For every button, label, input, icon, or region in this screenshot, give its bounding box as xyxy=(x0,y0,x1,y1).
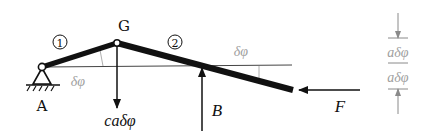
bar-1 xyxy=(42,43,117,67)
hinge-g xyxy=(114,40,120,46)
body-2-label: 2 xyxy=(172,37,179,50)
beam-virtual-work-diagram: 1 2 A G caδφ B F δφ δφ aδφ aδφ xyxy=(0,0,433,139)
pin-support-a xyxy=(26,63,60,91)
dimension-lower-label: aδφ xyxy=(387,70,409,85)
point-g-label: G xyxy=(118,17,130,35)
body-1-label: 1 xyxy=(57,37,64,50)
dimension-marker: aδφ aδφ xyxy=(387,13,409,114)
point-a-label: A xyxy=(36,97,48,115)
load-label: caδφ xyxy=(104,112,136,130)
reference-line xyxy=(42,65,292,67)
reaction-b-label: B xyxy=(212,101,223,120)
force-f-label: F xyxy=(334,97,346,116)
angle-mark-left xyxy=(100,50,103,66)
body-2-marker: 2 xyxy=(168,35,182,50)
angle-left-label: δφ xyxy=(71,74,86,89)
dimension-upper-label: aδφ xyxy=(387,45,409,60)
body-1-marker: 1 xyxy=(53,35,67,50)
angle-right-label: δφ xyxy=(234,44,249,59)
